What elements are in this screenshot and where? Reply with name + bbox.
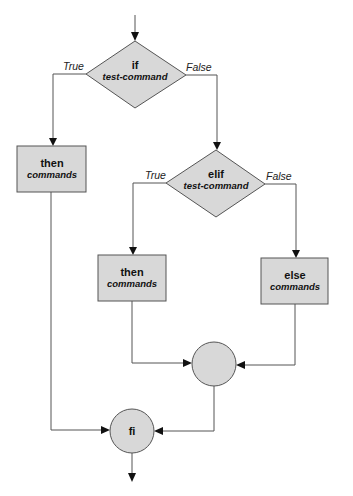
else-keyword: else xyxy=(284,269,305,281)
elif-true-label: True xyxy=(145,169,166,181)
if-decision-node: if test-command xyxy=(86,41,186,108)
else-to-merge-edge xyxy=(236,304,295,369)
then2-to-merge-edge xyxy=(132,301,192,367)
if-false-label: False xyxy=(186,61,212,73)
then-keyword-1: then xyxy=(40,157,64,169)
elif-true-edge xyxy=(129,183,166,255)
else-commands-box: else commands xyxy=(261,258,328,304)
if-false-edge xyxy=(186,75,221,150)
elif-keyword: elif xyxy=(208,168,224,180)
then-commands-box-2: then commands xyxy=(98,255,166,301)
elif-test-command: test-command xyxy=(184,180,249,191)
fi-keyword: fi xyxy=(129,425,136,437)
merge-to-fi-edge xyxy=(154,386,214,435)
flowchart: if test-command True False then commands… xyxy=(0,0,353,496)
if-keyword: if xyxy=(132,59,139,71)
then1-to-fi-edge xyxy=(51,192,110,434)
if-true-label: True xyxy=(63,60,84,72)
then-commands-box-1: then commands xyxy=(17,146,86,192)
then-commands-text-1: commands xyxy=(27,169,77,180)
merge-circle-node xyxy=(192,342,236,386)
elif-false-label: False xyxy=(266,170,292,182)
else-commands-text: commands xyxy=(270,281,320,292)
exit-arrow xyxy=(128,453,136,482)
then-keyword-2: then xyxy=(120,266,144,278)
elif-decision-node: elif test-command xyxy=(166,150,265,217)
fi-circle-node: fi xyxy=(110,409,154,453)
entry-arrow xyxy=(131,15,139,41)
then-commands-text-2: commands xyxy=(107,278,157,289)
if-test-command: test-command xyxy=(103,71,168,82)
if-true-edge xyxy=(49,74,86,146)
elif-false-edge xyxy=(265,184,300,258)
